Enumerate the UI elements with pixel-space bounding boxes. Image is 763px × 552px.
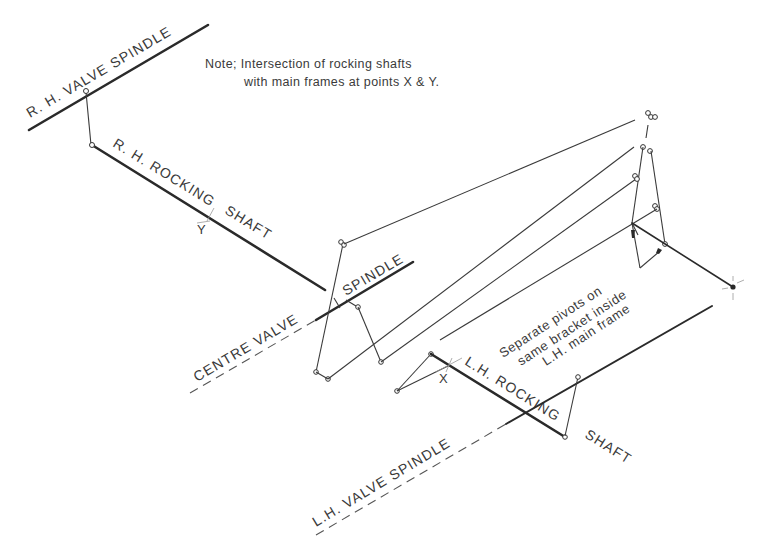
note-line-1: Note; Intersection of rocking shafts — [205, 57, 412, 71]
note-line-2: with main frames at points X & Y. — [243, 75, 439, 89]
rh-valve-spindle-label: R. H. VALVE SPINDLE — [23, 23, 174, 121]
rh-valve-spindle: R. H. VALVE SPINDLE — [23, 23, 208, 130]
rh-rocking-shaft-label: R. H. ROCKING — [110, 135, 218, 210]
note: Note; Intersection of rocking shafts wit… — [205, 57, 439, 89]
point-y-label: Y — [197, 222, 206, 237]
valve-gear-diagram: R. H. VALVE SPINDLE R. H. ROCKING SHAFT … — [0, 0, 763, 552]
point-x-label: X — [439, 371, 448, 386]
pivot-bracket: Separate pivots on same bracket inside L… — [440, 111, 744, 369]
centre-valve-label: CENTRE VALVE — [190, 310, 301, 384]
lh-valve-spindle-label: L.H. VALVE SPINDLE — [309, 434, 453, 529]
rh-rocking-shaft: R. H. ROCKING SHAFT Y — [84, 89, 326, 291]
rh-rocking-shaft-label-2: SHAFT — [222, 202, 275, 243]
centre-spindle-label: SPINDLE — [339, 250, 406, 298]
lh-rocking-shaft-label-2: SHAFT — [582, 426, 634, 467]
centre-valve-spindle: CENTRE VALVE SPINDLE — [190, 250, 413, 393]
